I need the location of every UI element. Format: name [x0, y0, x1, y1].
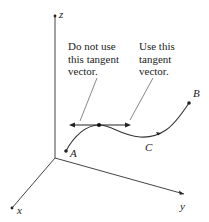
x-axis: [11, 158, 55, 209]
x-axis-label: x: [17, 204, 22, 216]
space-curve: [64, 101, 191, 153]
point-b-dot: [187, 101, 191, 105]
tangent-point-dot: [97, 123, 101, 127]
leader-line-do-not-use: [80, 78, 97, 121]
y-axis: [55, 158, 184, 195]
annotation-use-this: Use this tangent vector.: [139, 40, 175, 78]
z-axis: [54, 15, 57, 158]
point-c-label: C: [145, 141, 152, 153]
leader-line-use-this: [130, 78, 153, 120]
point-a-dot: [64, 149, 68, 153]
right-tangent-arrow-icon: [125, 123, 131, 128]
tangent-vectors: [69, 123, 131, 128]
z-axis-arrow-icon: [54, 15, 57, 18]
point-a-label: A: [70, 147, 77, 159]
space-curve-diagram: z x y A B C Do not use this tangent vect…: [0, 0, 209, 222]
z-axis-label: z: [59, 8, 63, 20]
left-tangent-arrow-icon: [69, 123, 75, 128]
annotation-do-not-use: Do not use this tangent vector.: [68, 40, 119, 78]
y-axis-label: y: [180, 200, 185, 212]
point-b-label: B: [193, 87, 200, 99]
diagram-canvas: [0, 0, 209, 222]
x-axis-arrow-icon: [11, 207, 14, 210]
